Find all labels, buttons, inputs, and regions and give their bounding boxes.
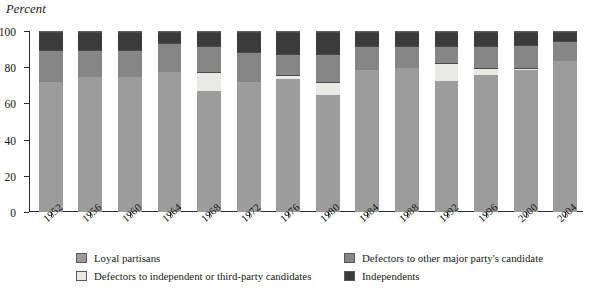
legend-swatch-icon (76, 271, 87, 281)
bar-segment (78, 77, 102, 212)
bar-segment (355, 70, 379, 212)
bar-segment (316, 32, 340, 54)
stacked-bar-chart: 020406080100 (29, 31, 583, 212)
y-axis-tick-label: 60 (5, 98, 17, 110)
bar-1956[interactable] (78, 31, 102, 212)
bar-segment (553, 61, 577, 212)
y-axis-tick-label: 20 (5, 171, 17, 183)
bar-segment (158, 32, 182, 43)
legend-item-2[interactable]: Defectors to other major party's candida… (344, 252, 543, 264)
bar-segment (514, 68, 538, 70)
bar-segment (395, 46, 419, 68)
bar-1976[interactable] (276, 31, 300, 212)
y-axis-tick: 80 (24, 67, 29, 68)
bar-segment (197, 32, 221, 46)
bar-segment (39, 50, 63, 82)
bar-segment (474, 68, 498, 75)
y-axis-title: Percent (6, 2, 46, 17)
bar-segment (237, 52, 261, 83)
bar-segment (118, 32, 142, 50)
legend-label: Defectors to other major party's candida… (362, 252, 543, 264)
bar-segment (78, 32, 102, 50)
y-axis-tick-label: 100 (0, 26, 16, 38)
bar-segment (118, 50, 142, 77)
legend-label: Defectors to independent or third-party … (94, 270, 311, 282)
y-axis-tick: 20 (24, 176, 29, 177)
bar-segment (514, 45, 538, 68)
plot-area (29, 31, 583, 212)
bar-1996[interactable] (474, 31, 498, 212)
bar-segment (276, 32, 300, 54)
y-axis-tick-label: 40 (5, 135, 17, 147)
legend-label: Independents (362, 270, 420, 282)
bar-2004[interactable] (553, 31, 577, 212)
bar-segment (355, 32, 379, 46)
y-axis-tick: 0 (24, 212, 29, 213)
bar-segment (395, 68, 419, 212)
bar-1968[interactable] (197, 31, 221, 212)
bar-segment (435, 46, 459, 62)
bar-1960[interactable] (118, 31, 142, 212)
bar-1980[interactable] (316, 31, 340, 212)
bar-segment (78, 50, 102, 77)
bar-segment (435, 63, 459, 81)
bar-segment (39, 82, 63, 212)
legend-label: Loyal partisans (94, 252, 160, 264)
bar-segment (514, 70, 538, 212)
bar-segment (197, 91, 221, 212)
legend-swatch-icon (344, 271, 355, 281)
bar-segment (355, 46, 379, 69)
bar-segment (276, 79, 300, 212)
bar-segment (474, 46, 498, 68)
bar-2000[interactable] (514, 31, 538, 212)
y-axis-tick: 100 (24, 31, 29, 32)
bar-segment (553, 41, 577, 61)
bar-1992[interactable] (435, 31, 459, 212)
bar-segment (197, 46, 221, 71)
bar-segment (435, 81, 459, 212)
bar-1964[interactable] (158, 31, 182, 212)
y-axis-tick: 40 (24, 140, 29, 141)
bar-segment (316, 54, 340, 83)
bar-segment (237, 32, 261, 52)
bar-segment (158, 43, 182, 72)
bar-segment (316, 95, 340, 212)
bar-segment (395, 32, 419, 46)
bar-segment (316, 82, 340, 95)
bar-1952[interactable] (39, 31, 63, 212)
bar-segment (474, 32, 498, 46)
legend-item-0[interactable]: Loyal partisans (76, 252, 160, 264)
legend-item-3[interactable]: Independents (344, 270, 420, 282)
y-axis-tick-label: 80 (5, 62, 17, 74)
bar-segment (553, 32, 577, 41)
legend-swatch-icon (76, 253, 87, 263)
bar-1972[interactable] (237, 31, 261, 212)
chart-legend: Loyal partisansDefectors to independent … (0, 250, 591, 294)
bar-segment (474, 75, 498, 212)
bar-segment (158, 72, 182, 212)
y-axis-tick: 60 (24, 103, 29, 104)
bar-segment (514, 32, 538, 45)
legend-swatch-icon (344, 253, 355, 263)
bar-segment (237, 82, 261, 212)
bar-1988[interactable] (395, 31, 419, 212)
bar-segment (435, 32, 459, 46)
bar-segment (197, 72, 221, 92)
bar-segment (39, 32, 63, 50)
y-axis-tick-label: 0 (10, 207, 16, 219)
bar-1984[interactable] (355, 31, 379, 212)
bar-segment (118, 77, 142, 212)
bar-segment (276, 54, 300, 76)
bar-segment (276, 75, 300, 79)
legend-item-1[interactable]: Defectors to independent or third-party … (76, 270, 311, 282)
